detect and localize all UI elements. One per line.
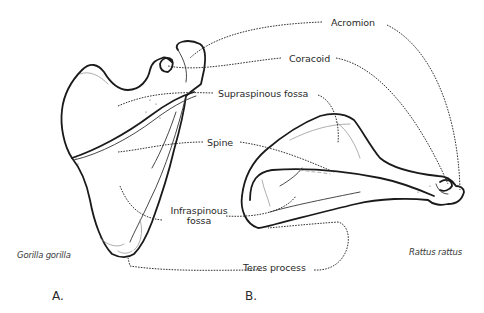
species-rattus: Rattus rattus (409, 247, 462, 257)
rat-scapula-drawing (242, 114, 464, 228)
label-coracoid: Coracoid (289, 54, 330, 64)
label-spine: Spine (207, 138, 233, 148)
species-gorilla: Gorilla gorilla (17, 250, 71, 260)
label-teres-process: Teres process (243, 263, 306, 273)
label-infraspinous-line2: fossa (187, 215, 211, 226)
label-infraspinous-fossa: Infraspinous fossa (168, 206, 230, 225)
label-acromion: Acromion (331, 18, 375, 28)
panel-label-b: B. (245, 289, 257, 303)
scapula-comparison-diagram: Acromion Coracoid Supraspinous fossa Spi… (0, 0, 484, 313)
label-supraspinous-fossa: Supraspinous fossa (218, 89, 308, 99)
panel-label-a: A. (52, 289, 64, 303)
